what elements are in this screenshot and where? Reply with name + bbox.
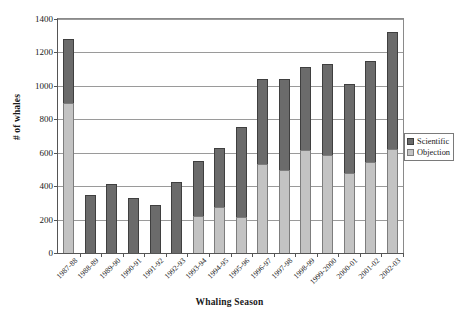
y-axis-tick-label: 1000	[35, 81, 53, 91]
bar-segment-objection[interactable]	[279, 170, 290, 253]
bars-layer	[58, 19, 403, 253]
y-axis-tick-label: 0	[49, 248, 54, 258]
bar-group[interactable]	[128, 198, 139, 253]
bar-group[interactable]	[63, 39, 74, 253]
bar-segment-scientific[interactable]	[344, 84, 355, 173]
bar-segment-scientific[interactable]	[300, 67, 311, 150]
x-axis-tick-label: 1989-90	[98, 256, 123, 281]
bar-segment-scientific[interactable]	[171, 182, 182, 253]
bar-segment-scientific[interactable]	[279, 79, 290, 170]
x-axis-tick-label: 1990-91	[119, 256, 144, 281]
x-axis-tick-label: 1988-89	[76, 256, 101, 281]
bar-segment-scientific[interactable]	[236, 127, 247, 218]
y-axis-tick-label: 1200	[35, 47, 53, 57]
x-axis-tick-label: 1995-96	[227, 256, 252, 281]
bar-segment-scientific[interactable]	[365, 61, 376, 162]
bar-group[interactable]	[257, 79, 268, 253]
y-axis-title: # of whales	[12, 62, 22, 172]
x-axis-tick-label: 1992-93	[162, 256, 187, 281]
legend-label-objection: Objection	[417, 148, 450, 158]
bar-segment-scientific[interactable]	[63, 39, 74, 103]
bar-segment-objection[interactable]	[214, 207, 225, 253]
bar-segment-objection[interactable]	[193, 216, 204, 253]
legend-item-scientific: Scientific	[407, 136, 450, 147]
bar-segment-objection[interactable]	[300, 150, 311, 253]
y-axis-tick-label: 1400	[35, 14, 53, 24]
bar-segment-objection[interactable]	[387, 149, 398, 253]
y-axis-tick-label: 600	[40, 148, 54, 158]
bar-group[interactable]	[365, 61, 376, 253]
plot-area: 0200400600800100012001400	[57, 18, 404, 254]
bar-segment-objection[interactable]	[322, 155, 333, 253]
bar-group[interactable]	[322, 64, 333, 253]
bar-group[interactable]	[279, 79, 290, 253]
bar-segment-objection[interactable]	[344, 173, 355, 253]
bar-segment-scientific[interactable]	[322, 64, 333, 154]
x-axis-tick-label: 2002-03	[378, 256, 403, 281]
x-axis-tick-label: 1997-98	[270, 256, 295, 281]
whaling-season-stacked-bar-chart: # of whales 0200400600800100012001400 19…	[0, 0, 466, 315]
bar-segment-objection[interactable]	[257, 164, 268, 253]
bar-group[interactable]	[85, 195, 96, 253]
bar-group[interactable]	[236, 127, 247, 253]
bar-segment-scientific[interactable]	[150, 205, 161, 253]
y-axis-tick-label: 400	[40, 181, 54, 191]
bar-group[interactable]	[344, 84, 355, 253]
bar-group[interactable]	[214, 148, 225, 253]
legend-swatch-objection-icon	[407, 149, 414, 156]
bar-group[interactable]	[193, 161, 204, 253]
x-axis-tick-label: 2001-02	[356, 256, 381, 281]
y-axis-tick-label: 800	[40, 114, 54, 124]
x-axis-tick-label: 1991-92	[141, 256, 166, 281]
bar-segment-scientific[interactable]	[257, 79, 268, 164]
bar-group[interactable]	[300, 67, 311, 253]
x-axis-tick-mark	[403, 253, 404, 257]
x-axis-tick-label: 1994-95	[205, 256, 230, 281]
bar-group[interactable]	[150, 205, 161, 253]
bar-group[interactable]	[387, 32, 398, 253]
y-axis-tick-label: 200	[40, 215, 54, 225]
legend-swatch-scientific-icon	[407, 138, 414, 145]
x-axis-tick-label: 1993-94	[184, 256, 209, 281]
bar-segment-scientific[interactable]	[128, 198, 139, 253]
bar-group[interactable]	[171, 182, 182, 253]
legend-label-scientific: Scientific	[417, 137, 449, 147]
bar-segment-scientific[interactable]	[387, 32, 398, 148]
x-axis-title: Whaling Season	[57, 297, 402, 307]
bar-segment-objection[interactable]	[236, 217, 247, 253]
x-axis-tick-label: 1987-88	[54, 256, 79, 281]
x-axis-tick-label: 1996-97	[248, 256, 273, 281]
bar-segment-scientific[interactable]	[193, 161, 204, 217]
x-axis-tick-label: 2000-01	[335, 256, 360, 281]
bar-group[interactable]	[106, 184, 117, 253]
x-axis-tick-labels: 1987-881988-891989-901990-911991-921992-…	[57, 256, 402, 298]
bar-segment-scientific[interactable]	[106, 184, 117, 253]
chart-legend: Scientific Objection	[404, 133, 454, 161]
y-axis-tick-mark	[54, 253, 58, 254]
bar-segment-scientific[interactable]	[85, 195, 96, 253]
bar-segment-scientific[interactable]	[214, 148, 225, 207]
bar-segment-objection[interactable]	[365, 162, 376, 253]
bar-segment-objection[interactable]	[63, 103, 74, 253]
legend-item-objection: Objection	[407, 147, 450, 158]
